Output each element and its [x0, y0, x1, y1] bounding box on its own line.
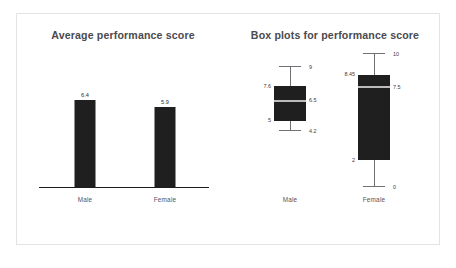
whisker-line-low-female — [374, 160, 375, 187]
median-line-female — [358, 86, 390, 88]
figure-frame: Average performance score 6.4 Male 5.9 F… — [16, 13, 440, 245]
label-whisker-low-male: 4.2 — [309, 129, 317, 134]
bar-female[interactable] — [155, 107, 176, 187]
box-plot-plot-area: 9 7.6 6.5 5 4.2 Male — [229, 54, 441, 219]
bar-chart-plot-area: 6.4 Male 5.9 Female — [17, 54, 229, 219]
label-median-male: 6.5 — [309, 98, 317, 103]
box-category-label-male: Male — [283, 196, 298, 203]
whisker-line-high-female — [374, 54, 375, 75]
bar-category-label-male: Male — [78, 196, 93, 203]
median-line-male — [274, 100, 306, 102]
bar-chart-panel: Average performance score 6.4 Male 5.9 F… — [17, 14, 229, 244]
box-plot-male[interactable]: 9 7.6 6.5 5 4.2 — [255, 54, 325, 187]
bar-value-label-female: 5.9 — [161, 99, 169, 105]
box-body-male — [274, 86, 306, 121]
bar-category-label-female: Female — [154, 196, 177, 203]
box-plot-female[interactable]: 10 8.45 7.5 2 0 — [339, 54, 409, 187]
box-category-label-female: Female — [363, 196, 386, 203]
label-q3-male: 7.6 — [264, 84, 272, 89]
label-q3-female: 8.45 — [345, 72, 356, 77]
box-plot-panel: Box plots for performance score 9 7.6 6.… — [229, 14, 441, 244]
bar-chart-title: Average performance score — [17, 29, 229, 41]
label-whisker-high-male: 9 — [309, 65, 312, 70]
whisker-cap-low-female — [363, 186, 385, 187]
label-whisker-high-female: 10 — [393, 52, 399, 57]
box-plot-title: Box plots for performance score — [229, 29, 441, 41]
bar-value-label-male: 6.4 — [81, 92, 89, 98]
bar-chart-x-axis-line — [39, 187, 209, 188]
label-whisker-low-female: 0 — [393, 185, 396, 190]
figure-canvas: Average performance score 6.4 Male 5.9 F… — [0, 0, 456, 268]
bar-male[interactable] — [75, 100, 96, 187]
whisker-line-high-male — [290, 67, 291, 86]
label-q1-male: 5 — [268, 118, 271, 123]
label-median-female: 7.5 — [393, 85, 401, 90]
whisker-cap-low-male — [279, 130, 301, 131]
label-q1-female: 2 — [352, 158, 355, 163]
